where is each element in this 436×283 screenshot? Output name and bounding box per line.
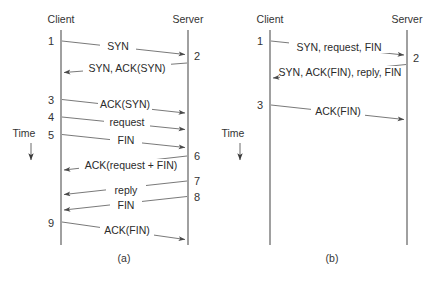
panel-a-seq-5: 5	[48, 129, 54, 141]
panel-a-message-label-8: FIN	[118, 199, 135, 211]
panel-b-server-label: Server	[392, 13, 423, 25]
panel-b-caption: (b)	[326, 252, 339, 264]
figure-canvas: Client Server Time SYN 1 2 SYN, ACK(SYN)…	[0, 0, 436, 283]
panel-b-message-label-3: ACK(FIN)	[315, 105, 361, 117]
panel-a-message-label-6: ACK(request + FIN)	[85, 159, 178, 171]
panel-a-seq-9: 9	[48, 217, 54, 229]
panel-a-seq-2: 2	[194, 50, 200, 62]
panel-a-time-label: Time	[13, 127, 36, 139]
panel-a-message-label-2: SYN, ACK(SYN)	[88, 62, 165, 74]
panel-a-message-label-1: SYN	[107, 40, 129, 52]
panel-a-message-label-5: FIN	[118, 134, 135, 146]
panel-a-message-label-9: ACK(FIN)	[104, 224, 150, 236]
tcp-timeline-diagram: Client Server Time SYN 1 2 SYN, ACK(SYN)…	[0, 0, 436, 283]
panel-b-seq-1: 1	[257, 35, 263, 47]
panel-a-seq-8: 8	[194, 191, 200, 203]
panel-a-seq-4: 4	[48, 111, 54, 123]
panel-b-seq-3: 3	[257, 99, 263, 111]
panel-a-client-label: Client	[48, 13, 75, 25]
panel-a-seq-6: 6	[194, 150, 200, 162]
panel-a-message-label-7: reply	[115, 184, 139, 196]
panel-a-message-label-4: request	[109, 116, 144, 128]
panel-b-message-label-1: SYN, request, FIN	[296, 41, 381, 53]
panel-a-seq-3: 3	[48, 94, 54, 106]
panel-b: Client Server Time SYN, request, FIN 1 2…	[222, 13, 423, 264]
panel-a-message-label-3: ACK(SYN)	[100, 98, 150, 110]
panel-b-message-label-2: SYN, ACK(FIN), reply, FIN	[279, 66, 402, 78]
panel-a: Client Server Time SYN 1 2 SYN, ACK(SYN)…	[13, 13, 204, 264]
panel-a-caption: (a)	[118, 252, 131, 264]
panel-a-server-label: Server	[173, 13, 204, 25]
panel-b-time-label: Time	[222, 127, 245, 139]
panel-b-client-label: Client	[257, 13, 284, 25]
panel-a-seq-1: 1	[48, 35, 54, 47]
panel-b-seq-2: 2	[413, 52, 419, 64]
panel-a-seq-7: 7	[194, 175, 200, 187]
